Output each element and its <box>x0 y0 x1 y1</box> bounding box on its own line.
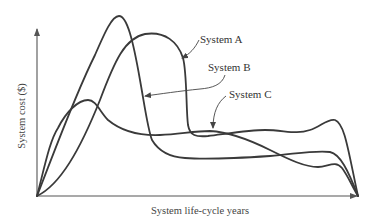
x-axis-label: System life-cycle years <box>151 205 249 216</box>
curve-system-c <box>37 100 358 196</box>
y-axis-label: System cost ($) <box>16 83 28 149</box>
label-system-b: System B <box>208 61 250 73</box>
curve-system-a <box>37 34 358 196</box>
life-cycle-cost-chart: System A System B System C System life-c… <box>0 0 375 223</box>
leader-system-a <box>182 40 199 58</box>
label-system-a: System A <box>200 33 243 45</box>
label-system-c: System C <box>229 88 271 100</box>
leader-system-c <box>213 96 226 128</box>
